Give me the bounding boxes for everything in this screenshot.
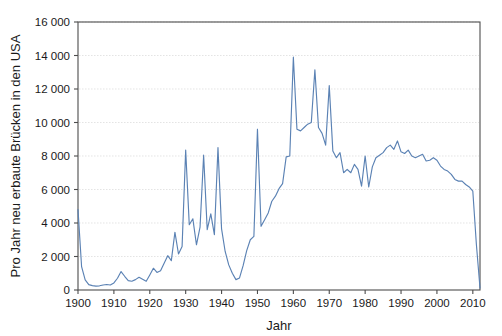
- y-tick-label: 10 000: [35, 117, 70, 129]
- y-tick-label: 16 000: [35, 16, 70, 28]
- y-axis-label: Pro Jahr neu erbaute Brücken in den USA: [8, 34, 23, 277]
- y-tick-label: 4 000: [41, 217, 70, 229]
- x-tick-label: 1980: [352, 297, 378, 309]
- y-tick-label: 12 000: [35, 83, 70, 95]
- y-axis-ticks: 02 0004 0006 0008 00010 00012 00014 0001…: [35, 16, 78, 296]
- x-tick-label: 1990: [388, 297, 414, 309]
- gridlines: [79, 22, 479, 257]
- line-chart-canvas: 02 0004 0006 0008 00010 00012 00014 0001…: [0, 0, 502, 336]
- x-tick-label: 1900: [65, 297, 91, 309]
- y-tick-label: 2 000: [41, 251, 70, 263]
- y-tick-label: 6 000: [41, 184, 70, 196]
- x-tick-label: 1950: [245, 297, 271, 309]
- x-tick-label: 1910: [101, 297, 127, 309]
- x-tick-label: 1970: [316, 297, 342, 309]
- x-tick-label: 1940: [209, 297, 235, 309]
- x-tick-label: 2000: [424, 297, 450, 309]
- chart-figure: 02 0004 0006 0008 00010 00012 00014 0001…: [0, 0, 502, 336]
- x-axis-label: Jahr: [266, 318, 292, 333]
- y-tick-label: 0: [64, 284, 70, 296]
- x-tick-label: 2010: [460, 297, 486, 309]
- x-tick-label: 1930: [173, 297, 199, 309]
- data-series-line: [78, 57, 480, 288]
- x-tick-label: 1920: [137, 297, 163, 309]
- y-tick-label: 8 000: [41, 150, 70, 162]
- x-tick-label: 1960: [281, 297, 307, 309]
- y-tick-label: 14 000: [35, 50, 70, 62]
- x-axis-ticks: 1900191019201930194019501960197019801990…: [65, 290, 485, 309]
